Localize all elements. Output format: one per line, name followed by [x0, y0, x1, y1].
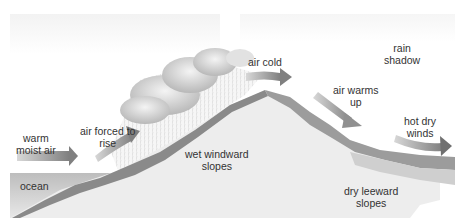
- label-line: slopes: [185, 160, 249, 172]
- label-line: rise: [80, 137, 135, 149]
- label-wet-windward-slopes: wet windward slopes: [185, 148, 249, 172]
- label-line: dry leeward: [344, 185, 398, 197]
- label-line: air warms: [333, 84, 379, 96]
- label-line: shadow: [384, 54, 420, 66]
- label-line: winds: [404, 127, 436, 139]
- label-dry-leeward-slopes: dry leeward slopes: [344, 185, 398, 209]
- label-air-forced-to-rise: air forced to rise: [80, 125, 135, 149]
- label-line: warm: [16, 132, 56, 144]
- label-hot-dry-winds: hot dry winds: [404, 115, 436, 139]
- label-line: slopes: [344, 197, 398, 209]
- label-line: air forced to: [80, 125, 135, 137]
- label-air-warms-up: air warms up: [333, 84, 379, 108]
- label-line: rain: [384, 42, 420, 54]
- label-rain-shadow: rain shadow: [384, 42, 420, 66]
- label-ocean: ocean: [20, 180, 49, 192]
- label-warm-moist-air: warm moist air: [16, 132, 56, 156]
- label-line: wet windward: [185, 148, 249, 160]
- label-line: moist air: [16, 144, 56, 156]
- sky-band: [10, 14, 220, 54]
- label-air-cold: air cold: [248, 56, 282, 68]
- label-line: up: [333, 96, 379, 108]
- label-line: hot dry: [404, 115, 436, 127]
- sky-band-right: [240, 14, 455, 42]
